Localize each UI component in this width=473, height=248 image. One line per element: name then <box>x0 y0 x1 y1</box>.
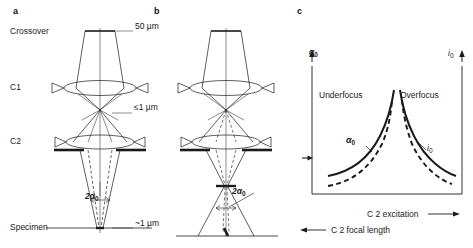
stray-ray-b-1 <box>208 110 226 120</box>
c1-lens-left-pole-b <box>178 83 190 93</box>
chart-y-axis-right-sub: 0 <box>450 52 454 59</box>
to-c2-right-b <box>226 110 253 142</box>
chart-region-underfocus: Underfocus <box>319 90 362 100</box>
c2-lens-left-pole <box>55 137 66 147</box>
c1-converge-left-b <box>202 88 226 110</box>
c1-converge-right-b <box>226 88 250 110</box>
chart-y-axis-left-label: α0 <box>309 47 318 57</box>
right-axis-arrowhead <box>459 50 465 57</box>
c2-lens-left-pole-b <box>181 137 192 147</box>
to-c2-right <box>100 110 127 142</box>
stray-ray-a-1 <box>82 110 100 120</box>
x-axis-focal-arrowhead <box>300 227 307 232</box>
chart-curve-alpha0-symbol: α <box>346 135 352 145</box>
stray-ray-b-2 <box>226 110 244 120</box>
panel-b-optics-diagram <box>150 0 310 248</box>
to-c2-left <box>73 110 100 142</box>
stray-ray-a-2 <box>100 110 118 120</box>
panel-a-angle-label: 2α0 <box>85 191 99 201</box>
chart-region-overfocus: Overfocus <box>400 90 439 100</box>
chart-curve-label-alpha0: α0 <box>346 135 355 145</box>
chart-curve-alpha0-sub: 0 <box>352 139 356 146</box>
panel-b-angle-sub: 0 <box>242 190 246 197</box>
chart-y-axis-left-sub: 0 <box>314 51 318 58</box>
curve-alpha0-left <box>328 90 394 176</box>
c1-lens-right-pole <box>136 83 148 93</box>
panel-a-label-c2: C2 <box>10 137 21 146</box>
figure-root: a <box>0 0 473 248</box>
panel-a-label-crossover: Crossover <box>10 27 49 36</box>
cone-outer-left-a <box>80 150 97 228</box>
cone-outer-right-a <box>103 150 120 228</box>
panel-a-angle-sub: 0 <box>95 195 99 202</box>
chart-x-axis-excitation-label: C 2 excitation <box>367 209 419 219</box>
panel-a-optics-diagram <box>0 0 160 248</box>
x-axis-excitation-arrowhead <box>453 211 460 216</box>
panel-a-angle-text: 2α <box>85 191 95 201</box>
chart-curve-i0-sub: 0 <box>429 147 433 154</box>
specimen-spot-b <box>224 228 228 236</box>
chart-y-axis-right-label: i0 <box>448 48 454 58</box>
cone-left-b <box>206 150 224 185</box>
beam-left-b <box>202 31 211 88</box>
chart-x-axis-focal-length-label: C 2 focal length <box>331 225 390 235</box>
cone-inner-right-a <box>101 150 112 228</box>
c1-lens-left-pole <box>52 83 64 93</box>
panel-b-angle-text: 2α <box>232 186 242 196</box>
c1-converge-right <box>100 88 124 110</box>
to-c2-left-b <box>199 110 226 142</box>
beam-right-a <box>115 31 124 88</box>
chart-curve-label-i0: i0 <box>427 143 433 153</box>
beam-right-b <box>241 31 250 88</box>
cone-inner-left-a <box>88 150 99 228</box>
panel-a-label-specimen: Specimen <box>10 223 48 232</box>
c1-converge-left <box>76 88 100 110</box>
c2-lens-right-pole-b <box>260 137 271 147</box>
c2-lens-right-pole <box>134 137 145 147</box>
panel-a-label-c1: C1 <box>10 83 21 92</box>
beam-left-a <box>76 31 85 88</box>
cone-right-b <box>228 150 246 185</box>
panel-b-angle-label: 2α0 <box>232 186 246 196</box>
diverge-left-b <box>198 187 224 236</box>
c1-lens-right-pole-b <box>262 83 274 93</box>
